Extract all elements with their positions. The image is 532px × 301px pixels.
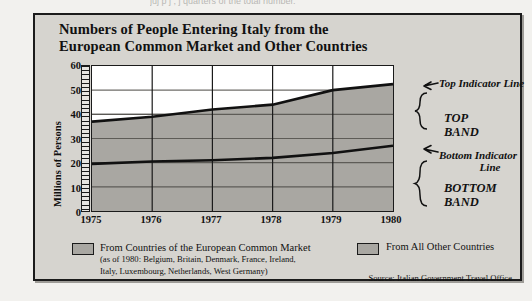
annotation-bottom-indicator-line: Bottom Indicator Line (439, 149, 532, 174)
chart-title: Numbers of People Entering Italy from th… (59, 21, 479, 55)
legend-label-other: From All Other Countries (386, 241, 494, 252)
screenshot-root: juj p j , j quarters of the total number… (0, 0, 532, 301)
x-tick-1980: 1980 (369, 214, 413, 225)
annotation-bottom-indicator-line-1: Bottom Indicator (439, 149, 532, 161)
top-band-brace-icon (415, 93, 427, 129)
y-axis-hatched-ruler (81, 65, 90, 212)
legend-swatch-ecm (72, 243, 94, 255)
annotation-bottom-indicator-line-2: Line (439, 161, 532, 173)
chart-figure: Numbers of People Entering Italy from th… (33, 13, 522, 281)
annotation-connectors (390, 69, 450, 219)
legend-sublabel-ecm-line-2: Italy, Luxembourg, Netherlands, West Ger… (100, 266, 350, 277)
x-tick-1975: 1975 (69, 214, 113, 225)
chart-title-line-2: European Common Market and Other Countri… (59, 38, 479, 55)
chart-source-note: Source: Italian Government Travel Office (368, 273, 512, 283)
plot-area (91, 65, 394, 212)
y-tick-40: 40 (55, 109, 81, 120)
y-tick-10: 10 (55, 182, 81, 193)
x-tick-1979: 1979 (309, 214, 353, 225)
y-axis-tick-labels: 60 50 40 30 20 10 0 (55, 59, 81, 219)
chart-svg (92, 66, 393, 211)
legend-swatch-other (357, 243, 379, 255)
annotation-top-band-line-1: TOP (444, 111, 479, 125)
annotation-top-band: TOP BAND (444, 111, 479, 139)
annotation-top-band-line-2: BAND (444, 125, 479, 139)
top-indicator-arrow-icon (424, 82, 438, 90)
x-tick-1978: 1978 (249, 214, 293, 225)
x-tick-1976: 1976 (129, 214, 173, 225)
page-body-text-cutoff: juj p j , j quarters of the total number… (150, 0, 440, 8)
y-tick-30: 30 (55, 133, 81, 144)
legend-label-ecm: From Countries of the European Common Ma… (100, 242, 311, 253)
annotation-bottom-band: BOTTOM BAND (444, 181, 497, 209)
x-axis-tick-labels: 1975 1976 1977 1978 1979 1980 (75, 214, 415, 230)
chart-title-line-1: Numbers of People Entering Italy from th… (59, 21, 479, 38)
bottom-indicator-arrow-icon (424, 146, 438, 154)
legend-entry-ecm: From Countries of the European Common Ma… (100, 241, 350, 277)
y-tick-50: 50 (55, 84, 81, 95)
annotation-top-indicator-line: Top Indicator Line (439, 77, 524, 89)
y-axis-title: Millions of Persons (38, 67, 56, 207)
y-tick-60: 60 (55, 60, 81, 71)
annotation-bottom-band-line-2: BAND (444, 195, 497, 209)
y-tick-20: 20 (55, 158, 81, 169)
x-tick-1977: 1977 (189, 214, 233, 225)
legend-sublabel-ecm-line-1: (as of 1980: Belgium, Britain, Denmark, … (100, 254, 350, 265)
bottom-band-brace-icon (415, 161, 427, 206)
annotation-bottom-band-line-1: BOTTOM (444, 181, 497, 195)
